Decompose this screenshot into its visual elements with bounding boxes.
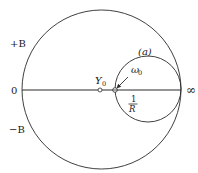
y0-point (98, 88, 102, 92)
plus-b-label: +B (10, 38, 26, 49)
conductance-fraction-numerator: 1 (131, 94, 136, 104)
circle-a-label: (a) (138, 46, 152, 57)
y0-label-subscript: 0 (102, 80, 106, 88)
omega0-label-subscript: 0 (138, 69, 142, 77)
conductance-fraction-denominator: R (128, 104, 136, 114)
zero-label: 0 (11, 85, 17, 96)
minus-b-label: −B (9, 124, 25, 135)
inner-circle-a (115, 56, 181, 122)
infinity-label: ∞ (186, 83, 196, 97)
admittance-circle-diagram: +B 0 −B ∞ (a) Y 0 ω 0 1 R (0, 0, 198, 173)
